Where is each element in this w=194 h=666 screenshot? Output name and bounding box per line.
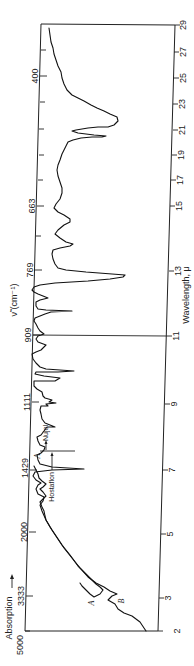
svg-text:27: 27 [178, 47, 188, 57]
trace-a-label-2: A [33, 453, 42, 459]
svg-text:3: 3 [163, 595, 173, 600]
svg-text:909: 909 [23, 327, 33, 342]
svg-text:663: 663 [27, 198, 37, 213]
spectrum-trace-a [34, 466, 103, 597]
svg-text:2: 2 [172, 628, 182, 633]
absorption-axis-title: Absorption [4, 596, 14, 639]
svg-text:5: 5 [165, 531, 175, 536]
svg-text:15: 15 [174, 201, 184, 211]
svg-text:23: 23 [177, 99, 187, 109]
trace-b-label: B [117, 598, 126, 603]
spectrum-trace-b [32, 28, 146, 631]
svg-text:21: 21 [177, 125, 187, 135]
svg-text:400: 400 [30, 68, 40, 83]
svg-text:29: 29 [178, 20, 188, 30]
absorption-arrowhead-icon [10, 574, 14, 579]
svg-text:25: 25 [178, 73, 188, 83]
wavelength-ticks [158, 25, 180, 631]
trace-a-label: A [87, 600, 96, 606]
svg-text:9: 9 [169, 401, 179, 406]
svg-text:19: 19 [176, 150, 186, 160]
svg-text:7: 7 [167, 467, 177, 472]
hostaflon-arrowhead-icon [51, 452, 54, 456]
svg-text:3333: 3333 [16, 586, 26, 606]
svg-text:769: 769 [25, 262, 35, 277]
reference-line-11um [33, 335, 167, 336]
svg-text:2000: 2000 [19, 522, 29, 542]
wavenumber-axis-title: ν̃ (cm⁻¹) [9, 284, 19, 317]
plot-frame [25, 24, 175, 631]
ir-spectrum-chart: 2 3 5 7 9 11 13 15 17 19 21 23 25 27 29 … [0, 0, 194, 666]
svg-text:11: 11 [171, 331, 181, 340]
wavenumber-tick-labels: 5000 3333 2000 1429 1111 909 769 663 400 [15, 68, 40, 655]
wavelength-axis-title: Wavelength, μ [181, 266, 191, 323]
svg-text:17: 17 [175, 175, 185, 185]
hostaflon-label: Hostaflon [48, 472, 55, 502]
svg-text:1111: 1111 [22, 393, 32, 411]
svg-text:1429: 1429 [20, 458, 30, 478]
svg-text:5000: 5000 [15, 635, 25, 655]
nujol-label: Nujol [42, 425, 50, 441]
